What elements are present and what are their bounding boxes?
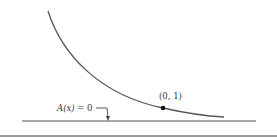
arrow-head-icon	[106, 116, 110, 121]
decay-curve	[48, 11, 224, 117]
asymptote-value: = 0	[75, 103, 93, 113]
point-marker	[161, 106, 166, 111]
point-label: (0, 1)	[159, 91, 182, 101]
asymptote-function: A(x)	[57, 103, 75, 113]
asymptote-label: A(x) = 0	[57, 103, 93, 113]
diagram-canvas	[0, 0, 277, 138]
pointer-arrow	[96, 108, 108, 119]
